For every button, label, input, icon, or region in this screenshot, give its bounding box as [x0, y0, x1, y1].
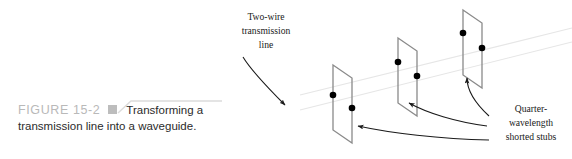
stub-far	[460, 10, 486, 88]
stub-near-outline	[333, 65, 352, 143]
figure-number-label: FIGURE 15-2	[18, 103, 100, 117]
figure-caption-first-line: FIGURE 15-2 Transforming a	[18, 103, 228, 118]
figure-caption: FIGURE 15-2 Transforming a transmission …	[18, 103, 228, 134]
two-wire-label-line-2: transmission	[242, 25, 291, 36]
stub-near-dot-left	[330, 92, 337, 99]
waveguide-diagram: Two-wire transmission line Quarter- wave…	[0, 0, 572, 159]
figure-caption-text-part-1: Transforming a	[126, 103, 203, 118]
stub-near-dot-right	[349, 105, 356, 112]
two-wire-label: Two-wire transmission line	[242, 11, 291, 50]
transmission-line-rails	[300, 28, 572, 110]
stub-leader-arrow-near	[358, 126, 489, 140]
stub-near	[330, 65, 356, 143]
stub-far-dot-left	[460, 30, 467, 37]
stub-leader-arrow-far	[467, 78, 489, 116]
stub-leader-arrow-middle	[409, 103, 487, 126]
rail-lower-line	[300, 42, 572, 110]
stubs-label-line-3: shorted stubs	[506, 131, 557, 142]
stub-middle-dot-right	[414, 73, 421, 80]
caption-square-marker-icon	[108, 105, 117, 114]
two-wire-label-line-1: Two-wire	[247, 11, 284, 22]
figure-root: Two-wire transmission line Quarter- wave…	[0, 0, 572, 159]
rail-upper-line	[300, 28, 572, 95]
stub-far-dot-right	[479, 45, 486, 52]
stub-middle-dot-left	[395, 59, 402, 66]
two-wire-label-line-3: line	[259, 39, 273, 50]
stubs-label: Quarter- wavelength shorted stubs	[506, 103, 557, 142]
figure-caption-text-part-2: transmission line into a waveguide.	[18, 119, 228, 134]
stubs-label-line-2: wavelength	[509, 117, 553, 128]
stubs-label-line-1: Quarter-	[515, 103, 547, 114]
stub-middle	[395, 38, 421, 116]
two-wire-leader-arrow	[243, 57, 285, 105]
